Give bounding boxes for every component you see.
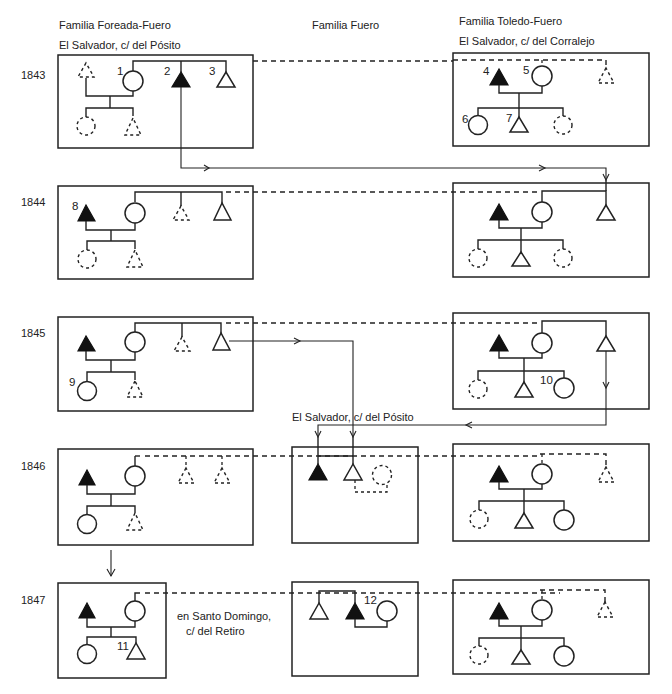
male-symbol xyxy=(217,72,235,87)
male-symbol xyxy=(597,336,615,351)
absent-male-symbol xyxy=(127,381,143,397)
male-filled-symbol xyxy=(490,204,508,220)
male-symbol xyxy=(213,333,230,350)
person-number-12: 12 xyxy=(364,594,377,606)
female-symbol xyxy=(532,333,552,353)
santo-domingo-annotation-2: c/ del Retiro xyxy=(186,625,245,637)
absent-female-symbol xyxy=(77,117,95,135)
fuero-1846-address: El Salvador, c/ del Pósito xyxy=(292,411,414,423)
person-number-4: 4 xyxy=(483,65,490,77)
absent-female-symbol xyxy=(469,380,487,398)
female-symbol xyxy=(125,466,145,486)
household-toledo-1845: 10 xyxy=(453,313,649,409)
kinship-diagram: Familia Foreada-Fuero El Salvador, c/ de… xyxy=(0,0,672,694)
absent-male-symbol xyxy=(173,206,189,220)
year-label-1847: 1847 xyxy=(21,594,45,606)
household-foreada-1844: 8 xyxy=(58,186,253,279)
male-symbol xyxy=(127,643,145,659)
person-number-9: 9 xyxy=(69,376,75,388)
year-label-1846: 1846 xyxy=(21,460,45,472)
absent-male-symbol xyxy=(127,250,143,267)
migration-arrow-2-to-toledo-1844 xyxy=(181,87,609,180)
household-fuero-1847: 12 xyxy=(292,582,418,676)
absent-male-symbol xyxy=(125,118,141,135)
female-symbol xyxy=(532,202,552,222)
household-foreada-1843: 1 2 3 xyxy=(58,55,253,148)
person-number-2: 2 xyxy=(164,65,170,77)
column-title-fuero: Familia Fuero xyxy=(312,19,379,31)
household-foreada-1845: 9 xyxy=(58,317,253,411)
absent-male-symbol xyxy=(598,68,614,83)
year-label-1845: 1845 xyxy=(21,327,45,339)
column-address-foreada: El Salvador, c/ del Pósito xyxy=(59,39,181,51)
male-filled-symbol xyxy=(78,336,95,351)
person-number-1: 1 xyxy=(117,65,123,77)
absent-female-symbol xyxy=(469,249,487,267)
male-filled-symbol xyxy=(490,69,508,85)
male-symbol xyxy=(510,117,528,132)
absent-male-symbol xyxy=(597,602,613,617)
female-symbol xyxy=(554,646,574,666)
male-symbol xyxy=(344,464,362,480)
person-number-5: 5 xyxy=(523,64,529,76)
female-symbol xyxy=(78,515,97,534)
male-symbol xyxy=(214,203,231,220)
absent-male-symbol xyxy=(214,468,230,483)
male-filled-symbol xyxy=(78,205,95,221)
column-title-foreada: Familia Foreada-Fuero xyxy=(59,19,171,31)
female-symbol xyxy=(123,71,143,91)
male-filled-symbol xyxy=(490,335,508,351)
absent-female-symbol xyxy=(554,116,572,134)
absent-male-symbol xyxy=(174,337,190,351)
column-title-toledo: Familia Toledo-Fuero xyxy=(459,15,562,27)
male-symbol xyxy=(515,382,533,397)
male-symbol xyxy=(512,252,530,266)
absent-male-symbol xyxy=(127,513,143,530)
year-label-1843: 1843 xyxy=(21,69,45,81)
male-symbol xyxy=(310,603,328,619)
female-symbol xyxy=(125,601,145,621)
female-symbol xyxy=(532,66,552,86)
absent-female-symbol xyxy=(470,646,488,664)
person-number-8: 8 xyxy=(72,200,78,212)
male-filled-symbol xyxy=(309,464,327,480)
male-filled-symbol xyxy=(346,603,364,619)
household-foreada-1847: 11 xyxy=(58,583,166,678)
absent-male-symbol xyxy=(178,468,194,483)
male-filled-symbol xyxy=(79,470,95,485)
female-symbol xyxy=(532,464,552,484)
absent-female-symbol xyxy=(373,466,392,485)
male-filled-symbol xyxy=(79,603,95,618)
person-number-11: 11 xyxy=(117,640,129,652)
female-symbol xyxy=(78,382,97,401)
household-fuero-1846 xyxy=(292,437,418,543)
household-foreada-1846 xyxy=(58,449,253,545)
male-filled-symbol xyxy=(490,466,508,482)
female-symbol xyxy=(532,600,552,620)
migration-arrow-foreada-1846-to-1847 xyxy=(107,550,115,576)
absent-female-symbol xyxy=(470,510,488,528)
column-address-toledo: El Salvador, c/ del Corralejo xyxy=(459,35,595,47)
male-filled-symbol xyxy=(490,603,508,619)
absent-female-symbol xyxy=(78,250,96,268)
female-symbol xyxy=(125,203,145,223)
person-number-10: 10 xyxy=(540,374,553,386)
year-label-1844: 1844 xyxy=(21,196,45,208)
female-symbol xyxy=(125,332,145,352)
male-symbol xyxy=(597,205,615,220)
female-symbol xyxy=(377,601,397,621)
male-symbol xyxy=(515,513,533,528)
person-number-7: 7 xyxy=(506,112,512,124)
santo-domingo-annotation-1: en Santo Domingo, xyxy=(177,610,271,622)
household-toledo-1846 xyxy=(453,444,649,541)
household-toledo-1847 xyxy=(453,580,649,674)
female-symbol xyxy=(554,378,574,398)
person-number-6: 6 xyxy=(462,113,468,125)
female-symbol xyxy=(78,645,97,664)
male-filled-symbol xyxy=(172,72,190,87)
household-toledo-1843: 4 5 6 7 xyxy=(453,53,649,146)
household-toledo-1844 xyxy=(453,180,649,277)
absent-female-symbol xyxy=(554,249,572,267)
absent-male-symbol xyxy=(78,63,94,77)
absent-male-symbol xyxy=(598,467,614,482)
